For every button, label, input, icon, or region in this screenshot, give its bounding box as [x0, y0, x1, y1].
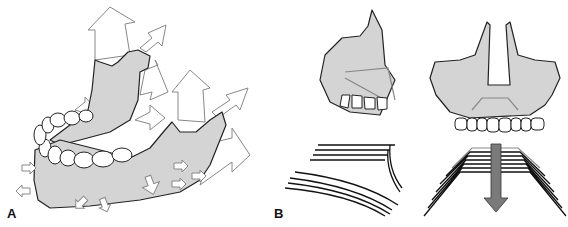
- panel-b-maxilla-lateral: [285, 10, 402, 216]
- panel-label-a: A: [7, 206, 16, 221]
- panel-b-maxilla-frontal: [424, 22, 566, 216]
- diagram-canvas: [0, 0, 568, 227]
- frontal-teeth: [455, 118, 544, 132]
- panel-a-mandible: [16, 7, 250, 214]
- panel-label-b: B: [274, 206, 283, 221]
- down-arrow: [484, 144, 508, 212]
